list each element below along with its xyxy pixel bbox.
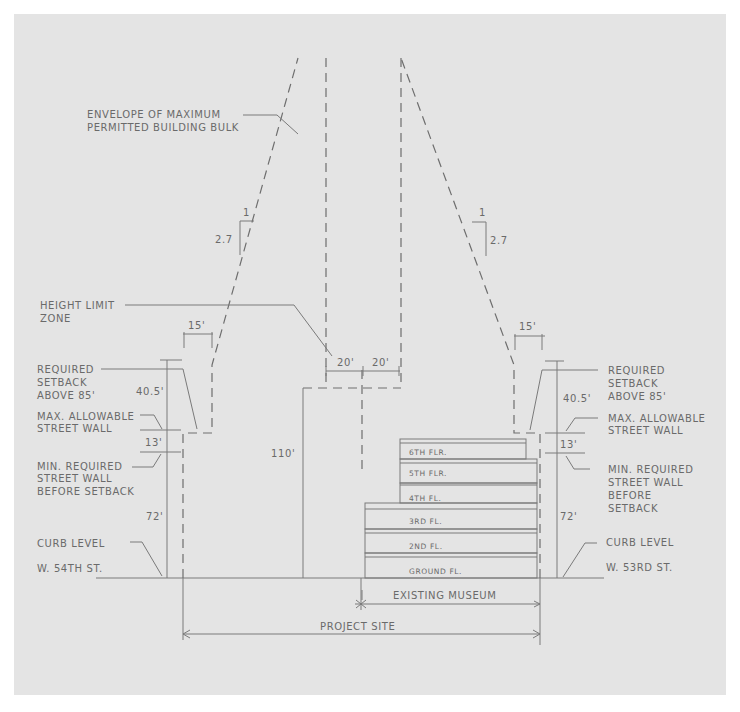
dim-left-40-5: 40.5': [136, 386, 164, 397]
left-setback-label-1: REQUIRED: [37, 364, 94, 375]
left-setback-label-2: SETBACK: [37, 377, 87, 388]
dim-setback-right: 15': [519, 321, 536, 332]
height-limit-label-1: HEIGHT LIMIT: [40, 300, 115, 311]
floor-ground: GROUND FL.: [409, 567, 462, 576]
dim-right-72: 72': [560, 511, 577, 522]
right-min-wall-label-2: STREET WALL: [608, 477, 683, 488]
slope-indicator-right: 1 2.7: [472, 207, 508, 256]
left-max-wall-label-1: MAX. ALLOWABLE: [37, 411, 135, 422]
existing-museum-floors: 6TH FLR. 5TH FLR. 4TH FL. 3RD FL. 2ND FL…: [365, 439, 537, 578]
left-street-label: W. 54TH ST.: [37, 563, 103, 574]
right-max-wall-label-2: STREET WALL: [608, 425, 683, 436]
svg-text:1: 1: [243, 207, 250, 218]
right-min-wall-label-4: SETBACK: [608, 503, 658, 514]
envelope-left: [183, 58, 298, 578]
right-street-label: W. 53RD ST.: [606, 562, 673, 573]
dim-height-limit-right: 20': [372, 357, 389, 368]
right-min-wall-label-1: MIN. REQUIRED: [608, 464, 694, 475]
floor-6: 6TH FLR.: [409, 448, 447, 457]
dim-right-13: 13': [560, 439, 577, 450]
dim-setback-left: 15': [188, 320, 205, 331]
envelope-label-1: ENVELOPE OF MAXIMUM: [87, 109, 221, 120]
left-max-wall-label-2: STREET WALL: [37, 423, 112, 434]
floor-2: 2ND FL.: [409, 542, 443, 551]
right-setback-label-2: SETBACK: [608, 378, 658, 389]
svg-text:2.7: 2.7: [215, 234, 233, 245]
left-curb-label: CURB LEVEL: [37, 538, 105, 549]
svg-text:1: 1: [479, 207, 486, 218]
right-setback-label-3: ABOVE 85': [608, 391, 666, 402]
dim-right-40-5: 40.5': [563, 393, 591, 404]
existing-museum-label: EXISTING MUSEUM: [393, 590, 497, 601]
dim-110: 110': [271, 448, 295, 459]
left-min-wall-label-3: BEFORE SETBACK: [37, 486, 135, 497]
left-setback-label-3: ABOVE 85': [37, 390, 95, 401]
right-setback-label-1: REQUIRED: [608, 365, 665, 376]
left-min-wall-label-1: MIN. REQUIRED: [37, 461, 123, 472]
height-limit-label-2: ZONE: [40, 313, 71, 324]
right-max-wall-label-1: MAX. ALLOWABLE: [608, 413, 706, 424]
floor-5: 5TH FLR.: [409, 469, 447, 478]
floor-3: 3RD FL.: [409, 517, 442, 526]
left-min-wall-label-2: STREET WALL: [37, 473, 112, 484]
zoning-section-diagram: ENVELOPE OF MAXIMUM PERMITTED BUILDING B…: [0, 0, 740, 712]
floor-4: 4TH FL.: [409, 494, 441, 503]
dim-height-limit-left: 20': [337, 357, 354, 368]
right-min-wall-label-3: BEFORE: [608, 490, 652, 501]
envelope-label-2: PERMITTED BUILDING BULK: [87, 122, 239, 133]
svg-text:2.7: 2.7: [490, 235, 508, 246]
right-curb-label: CURB LEVEL: [606, 537, 674, 548]
dim-left-72: 72': [146, 511, 163, 522]
dim-left-13: 13': [145, 437, 162, 448]
slope-indicator-left: 1 2.7: [215, 207, 254, 255]
project-site-label: PROJECT SITE: [320, 621, 395, 632]
